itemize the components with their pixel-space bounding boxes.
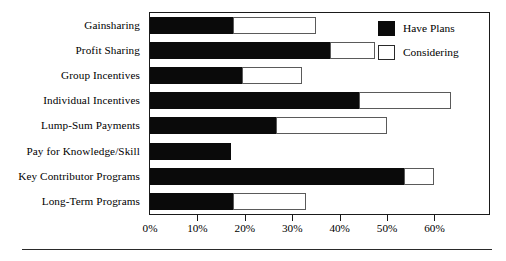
bar-segment-have-plans — [150, 17, 233, 34]
x-axis-tick-label: 60% — [424, 221, 445, 235]
category-label: Key Contributor Programs — [18, 169, 140, 183]
legend-label-have-plans: Have Plans — [403, 21, 455, 35]
category-label: Long-Term Programs — [42, 194, 140, 208]
x-axis-tick-label: 0% — [143, 221, 158, 235]
legend-item-considering: Considering — [378, 43, 459, 61]
y-axis-category-labels: GainsharingProfit SharingGroup Incentive… — [0, 12, 144, 212]
bar-segment-considering — [276, 117, 387, 134]
category-label: Pay for Knowledge/Skill — [26, 144, 140, 158]
x-axis-tick-label: 50% — [377, 221, 398, 235]
legend-item-have-plans: Have Plans — [378, 19, 455, 37]
category-label: Profit Sharing — [76, 43, 140, 57]
bar-row — [150, 168, 489, 185]
bar-row — [150, 143, 489, 160]
bar-segment-have-plans — [150, 117, 276, 134]
bar-row — [150, 67, 489, 84]
bar-segment-considering — [233, 17, 316, 34]
bar-segment-considering — [233, 193, 306, 210]
bar-segment-have-plans — [150, 168, 404, 185]
bar-segment-have-plans — [150, 193, 233, 210]
category-label: Gainsharing — [84, 18, 140, 32]
chart-legend: Have Plans Considering — [378, 19, 484, 65]
bar-row — [150, 117, 489, 134]
x-axis-tick-labels: 0%10%20%30%40%50%60% — [0, 221, 506, 237]
bar-segment-considering — [359, 92, 451, 109]
x-axis-tick-label: 30% — [282, 221, 303, 235]
legend-swatch-have-plans-icon — [378, 21, 395, 36]
x-axis-tick-label: 40% — [329, 221, 350, 235]
bar-segment-have-plans — [150, 92, 359, 109]
bar-row — [150, 193, 489, 210]
bar-segment-considering — [404, 168, 435, 185]
bar-row — [150, 92, 489, 109]
x-axis-tick-label: 10% — [187, 221, 208, 235]
x-axis-tick-label: 20% — [235, 221, 256, 235]
category-label: Individual Incentives — [43, 93, 140, 107]
legend-label-considering: Considering — [403, 45, 459, 59]
bar-segment-have-plans — [150, 143, 231, 160]
category-label: Group Incentives — [61, 68, 140, 82]
legend-swatch-considering-icon — [378, 45, 395, 60]
bar-segment-considering — [330, 42, 375, 59]
chart-figure: GainsharingProfit SharingGroup Incentive… — [0, 0, 506, 261]
page-divider-rule — [22, 249, 492, 250]
category-label: Lump-Sum Payments — [41, 118, 140, 132]
bar-segment-have-plans — [150, 67, 242, 84]
bar-segment-have-plans — [150, 42, 330, 59]
bar-segment-considering — [242, 67, 301, 84]
